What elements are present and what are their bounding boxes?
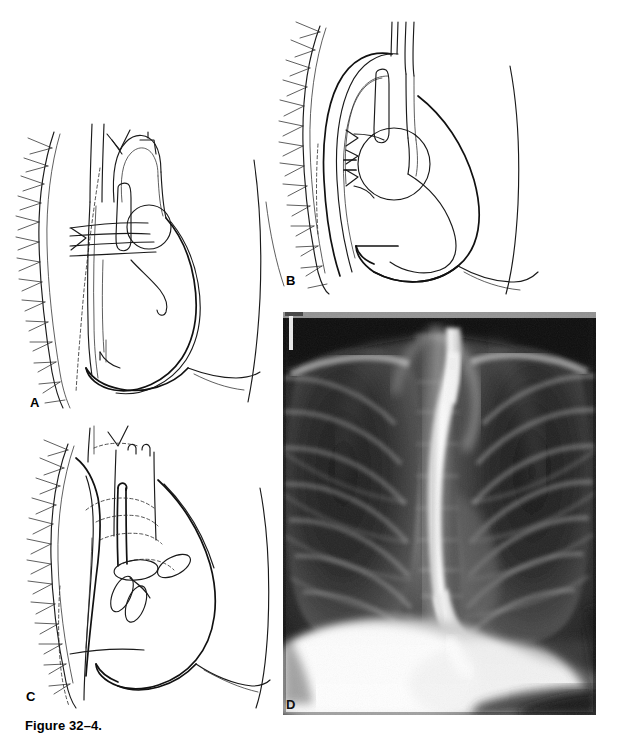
panel-label-d: D xyxy=(286,698,295,711)
figure-caption: Figure 32–4. xyxy=(25,718,102,733)
panel-label-a: A xyxy=(30,396,39,409)
panel-c-line-drawing xyxy=(8,418,280,708)
panel-b-line-drawing xyxy=(258,4,558,294)
figure-page: A xyxy=(0,0,620,753)
panel-a-line-drawing xyxy=(8,110,278,410)
panel-d-radiograph xyxy=(283,312,596,715)
panel-label-c: C xyxy=(26,690,35,703)
panel-label-b: B xyxy=(286,274,295,287)
